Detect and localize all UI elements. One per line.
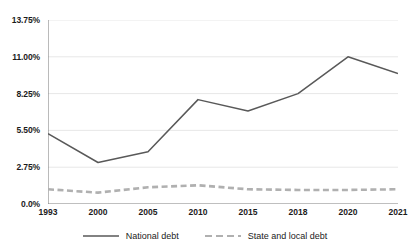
line-chart: 0.0%2.75%5.50%8.25%11.00%13.75% 19932000… — [0, 0, 410, 252]
legend-label-state-and-local-debt: State and local debt — [248, 231, 328, 241]
x-tick-label: 2018 — [289, 207, 308, 217]
x-tick-label: 2000 — [89, 207, 108, 217]
x-tick-label: 2010 — [189, 207, 208, 217]
legend-line-dashed-icon — [205, 231, 241, 241]
legend-line-solid-icon — [83, 231, 119, 241]
chart-legend: National debt State and local debt — [0, 231, 410, 241]
x-tick-label: 2015 — [239, 207, 258, 217]
legend-item-national-debt: National debt — [83, 231, 179, 241]
legend-label-national-debt: National debt — [126, 231, 179, 241]
x-axis: 19932000200520102015201820202021 — [0, 0, 410, 252]
x-tick-label: 2021 — [389, 207, 408, 217]
x-tick-label: 1993 — [39, 207, 58, 217]
x-tick-label: 2005 — [139, 207, 158, 217]
legend-item-state-and-local-debt: State and local debt — [205, 231, 328, 241]
x-tick-label: 2020 — [339, 207, 358, 217]
